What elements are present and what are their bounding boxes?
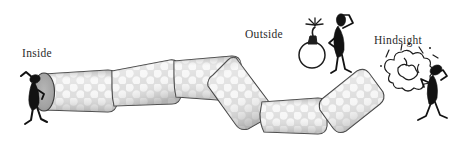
scene-svg: Inside Outside Hindsight	[0, 0, 460, 147]
label-inside: Inside	[22, 47, 52, 59]
tunnel-segment-5-trough	[260, 98, 327, 134]
label-hindsight: Hindsight	[374, 34, 423, 47]
label-outside: Outside	[245, 28, 283, 40]
illustration-canvas: Inside Outside Hindsight	[0, 0, 460, 147]
